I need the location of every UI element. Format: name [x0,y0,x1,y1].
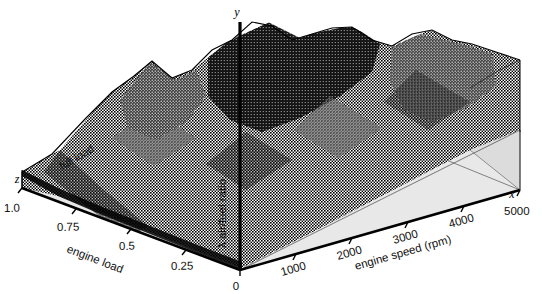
x-axis-letter: x [508,187,515,201]
y-axis-letter: y [233,5,240,19]
x-tick-label-1000: 1000 [279,259,307,278]
engine-map-3d-plot: y z x 1.0 0.75 0.5 0.25 0 1000 2000 3000… [0,0,542,294]
y-axis-label: λ air/fuel ratio [216,179,228,248]
z-tick-label-075: 0.75 [57,221,80,233]
z-tick-label-05: 0.5 [119,240,135,252]
x-tick-label-5000: 5000 [504,205,530,217]
z-axis-label: engine load [65,243,125,276]
x-tick-label-4000: 4000 [447,211,475,230]
z-tick-label-1: 1.0 [4,202,20,214]
surface-mesh [22,22,520,270]
z-tick-label-025: 0.25 [171,260,194,272]
z-tick-label-0: 0 [233,280,239,292]
plot-canvas: y z x 1.0 0.75 0.5 0.25 0 1000 2000 3000… [0,0,542,294]
z-axis-letter: z [14,172,20,186]
